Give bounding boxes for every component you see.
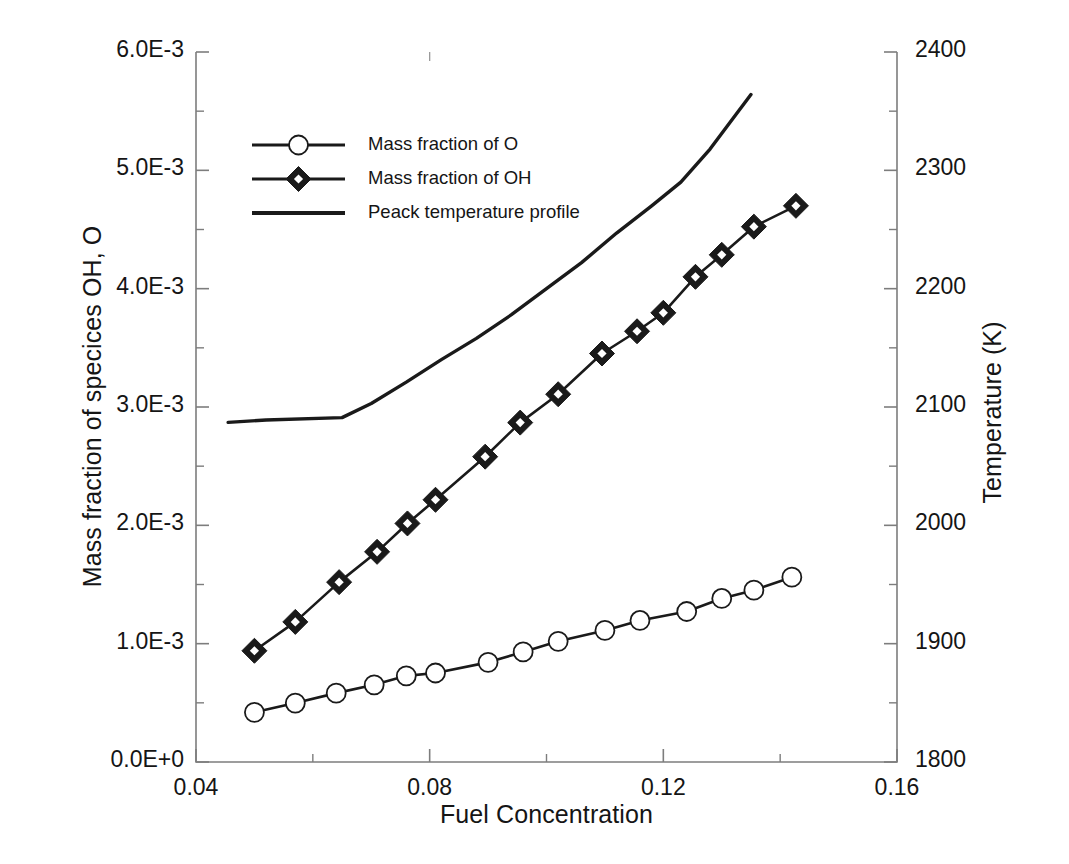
y-tick-label-left: 5.0E-3	[26, 154, 184, 181]
y-tick-label-right: 1900	[915, 628, 1025, 655]
y-tick-label-right: 1800	[915, 746, 1025, 773]
legend-label: Mass fraction of O	[368, 133, 518, 155]
x-tick-label: 0.16	[817, 774, 977, 801]
y-tick-label-right: 2000	[915, 509, 1025, 536]
x-tick-label: 0.12	[583, 774, 743, 801]
y-tick-label-left: 6.0E-3	[26, 36, 184, 63]
legend-label: Mass fraction of OH	[368, 167, 531, 189]
x-axis-title: Fuel Concentration	[196, 800, 897, 829]
y-tick-label-right: 2400	[915, 36, 1025, 63]
legend-label: Peack temperature profile	[368, 201, 580, 223]
y-tick-label-left: 0.0E+0	[26, 746, 184, 773]
y-tick-label-right: 2100	[915, 391, 1025, 418]
chart-figure	[0, 0, 1069, 864]
x-tick-label: 0.04	[116, 774, 276, 801]
y-tick-label-left: 2.0E-3	[26, 509, 184, 536]
y-tick-label-right: 2300	[915, 154, 1025, 181]
chart-page: Mass fraction of specices OH, O Temperat…	[0, 0, 1069, 864]
x-tick-label: 0.08	[350, 774, 510, 801]
y-tick-label-left: 3.0E-3	[26, 391, 184, 418]
y-tick-label-left: 4.0E-3	[26, 273, 184, 300]
y-tick-label-right: 2200	[915, 273, 1025, 300]
figure-background	[0, 0, 1069, 864]
y-tick-label-left: 1.0E-3	[26, 628, 184, 655]
